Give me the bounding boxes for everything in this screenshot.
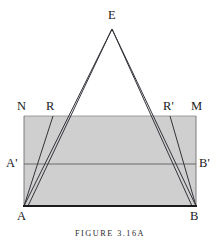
point-label-A: A — [17, 210, 26, 223]
point-label-E: E — [108, 9, 116, 22]
point-label-B-prime: B' — [199, 157, 210, 170]
geometry-diagram — [0, 0, 220, 251]
point-label-A-prime: A' — [6, 157, 18, 170]
figure-page: E N R R' M A' B' A B FIGURE 3.16A — [0, 0, 220, 251]
point-label-N: N — [17, 100, 26, 113]
point-label-R-prime: R' — [163, 100, 174, 113]
figure-caption: FIGURE 3.16A — [0, 229, 220, 238]
point-label-M: M — [191, 100, 202, 113]
point-label-R: R — [46, 100, 55, 113]
point-label-B: B — [190, 210, 199, 223]
